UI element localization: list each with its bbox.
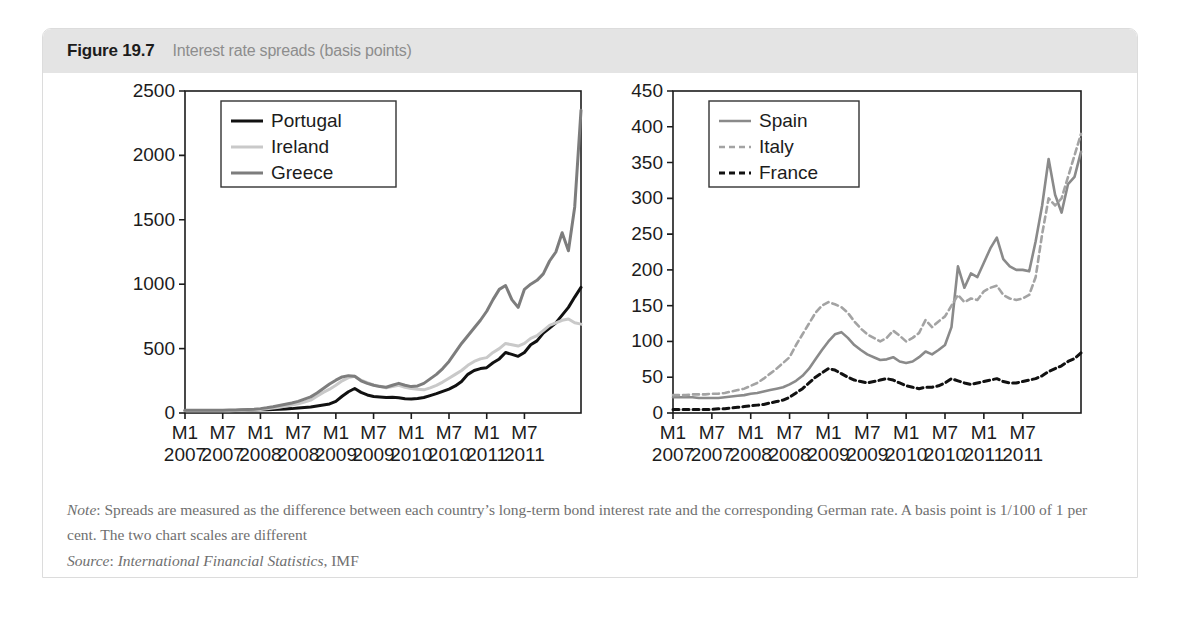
x-tick-label-month: M1	[971, 422, 997, 443]
x-tick-label-month: M1	[323, 422, 349, 443]
x-tick-label-month: M1	[815, 422, 841, 443]
x-tick-label-year: 2009	[807, 444, 849, 465]
legend-label-spain: Spain	[759, 110, 808, 131]
x-tick-label-month: M1	[893, 422, 919, 443]
x-tick-label-year: 2011	[466, 444, 507, 465]
x-tick-label-month: M7	[511, 422, 537, 443]
y-tick-label: 150	[631, 295, 663, 316]
x-tick-label-month: M7	[854, 422, 880, 443]
x-tick-label-month: M1	[247, 422, 273, 443]
note-text: : Spreads are measured as the difference…	[67, 501, 1087, 543]
x-tick-label-month: M7	[285, 422, 311, 443]
y-tick-label: 0	[652, 402, 663, 423]
x-tick-label-year: 2007	[691, 444, 733, 465]
y-tick-label: 100	[631, 330, 663, 351]
legend-label-ireland: Ireland	[271, 136, 329, 157]
x-tick-label-month: M7	[436, 422, 462, 443]
y-tick-label: 500	[143, 338, 175, 359]
x-tick-label-year: 2009	[846, 444, 888, 465]
legend-label-portugal: Portugal	[271, 110, 342, 131]
y-tick-label: 1500	[133, 209, 175, 230]
y-tick-label: 2500	[133, 80, 175, 101]
x-tick-label-year: 2009	[315, 444, 357, 465]
x-tick-label-month: M1	[738, 422, 764, 443]
x-tick-label-year: 2008	[768, 444, 810, 465]
x-tick-label-year: 2010	[428, 444, 470, 465]
x-tick-label-year: 2008	[730, 444, 772, 465]
x-tick-label-year: 2011	[1002, 444, 1043, 465]
x-tick-label-month: M7	[360, 422, 386, 443]
figure-notes: Note: Spreads are measured as the differ…	[67, 497, 1107, 573]
y-tick-label: 400	[631, 116, 663, 137]
legend-label-france: France	[759, 162, 818, 183]
figure-container: Figure 19.7 Interest rate spreads (basis…	[42, 28, 1138, 578]
x-tick-label-year: 2007	[164, 444, 206, 465]
x-tick-label-year: 2011	[963, 444, 1004, 465]
right-line-chart: 050100150200250300350400450M12007M72007M…	[581, 73, 1101, 493]
x-tick-label-month: M7	[776, 422, 802, 443]
source-line: Source: International Financial Statisti…	[67, 548, 1107, 573]
y-tick-label: 50	[642, 366, 663, 387]
y-tick-label: 1000	[133, 273, 175, 294]
y-tick-label: 0	[164, 402, 175, 423]
note-line: Note: Spreads are measured as the differ…	[67, 497, 1107, 547]
y-tick-label: 350	[631, 152, 663, 173]
x-tick-label-month: M7	[1010, 422, 1036, 443]
x-tick-label-year: 2007	[652, 444, 694, 465]
x-tick-label-month: M7	[932, 422, 958, 443]
x-tick-label-month: M1	[172, 422, 198, 443]
x-tick-label-month: M1	[660, 422, 686, 443]
x-tick-label-year: 2010	[390, 444, 432, 465]
x-tick-label-year: 2010	[924, 444, 966, 465]
x-tick-label-year: 2010	[885, 444, 927, 465]
x-tick-label-year: 2008	[239, 444, 281, 465]
x-tick-label-year: 2011	[504, 444, 545, 465]
source-label: Source	[67, 552, 109, 569]
x-tick-label-month: M1	[474, 422, 500, 443]
x-tick-label-year: 2007	[202, 444, 244, 465]
figure-header: Figure 19.7 Interest rate spreads (basis…	[43, 29, 1137, 73]
legend-label-greece: Greece	[271, 162, 333, 183]
x-tick-label-month: M1	[398, 422, 424, 443]
source-colon: :	[109, 552, 117, 569]
x-tick-label-month: M7	[699, 422, 725, 443]
x-tick-label-year: 2008	[277, 444, 319, 465]
y-tick-label: 2000	[133, 144, 175, 165]
y-tick-label: 200	[631, 259, 663, 280]
charts-row: 05001000150020002500M12007M72007M12008M7…	[43, 73, 1137, 493]
legend-label-italy: Italy	[759, 136, 794, 157]
chart-panel-right: 050100150200250300350400450M12007M72007M…	[581, 73, 1101, 493]
chart-panel-left: 05001000150020002500M12007M72007M12008M7…	[101, 73, 601, 493]
figure-number: Figure 19.7	[67, 41, 155, 61]
x-tick-label-month: M7	[210, 422, 236, 443]
y-tick-label: 300	[631, 187, 663, 208]
source-rest: , IMF	[323, 552, 358, 569]
y-tick-label: 250	[631, 223, 663, 244]
source-publication: International Financial Statistics	[118, 552, 324, 569]
y-tick-label: 450	[631, 80, 663, 101]
figure-caption: Interest rate spreads (basis points)	[173, 42, 412, 60]
left-line-chart: 05001000150020002500M12007M72007M12008M7…	[101, 73, 601, 493]
note-label: Note	[67, 501, 96, 518]
x-tick-label-year: 2009	[352, 444, 394, 465]
